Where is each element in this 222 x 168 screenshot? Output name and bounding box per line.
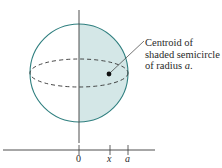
annotation-line-3: of radius a. [145, 60, 220, 72]
tick-label-x: x [107, 153, 111, 164]
centroid-annotation: Centroid of shaded semicircle of radius … [145, 37, 220, 72]
annotation-line-2: shaded semicircle [145, 49, 220, 61]
sphere-diagram [0, 0, 222, 168]
centroid-dot [107, 72, 112, 77]
tick-label-a: a [125, 153, 130, 164]
annotation-line-1: Centroid of [145, 37, 220, 49]
shaded-semicircle [79, 24, 128, 122]
tick-label-origin: 0 [76, 153, 81, 164]
